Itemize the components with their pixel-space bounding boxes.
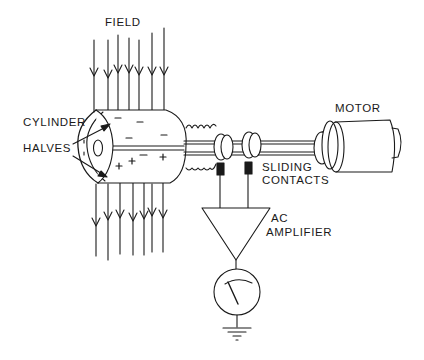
contacts-label: CONTACTS	[262, 174, 329, 186]
cylinder-label: CYLINDER	[23, 116, 86, 128]
diagram-drawing	[0, 0, 424, 360]
field-label: FIELD	[105, 16, 141, 28]
motor	[314, 120, 401, 172]
motor-label: MOTOR	[335, 102, 381, 114]
meter	[214, 269, 260, 327]
ac-label: AC	[271, 212, 288, 224]
halves-label: HALVES	[23, 142, 71, 154]
ground-symbol	[223, 328, 251, 340]
amplifier-label: AMPLIFIER	[266, 226, 332, 238]
slip-rings	[214, 132, 261, 160]
ac-amplifier	[202, 208, 270, 270]
field-mill-diagram: FIELD CYLINDER HALVES MOTOR SLIDING CONT…	[0, 0, 424, 360]
sliding-label: SLIDING	[262, 161, 312, 173]
coiled-wires	[186, 124, 216, 170]
sliding-contacts	[217, 162, 252, 208]
split-cylinder	[78, 110, 186, 183]
